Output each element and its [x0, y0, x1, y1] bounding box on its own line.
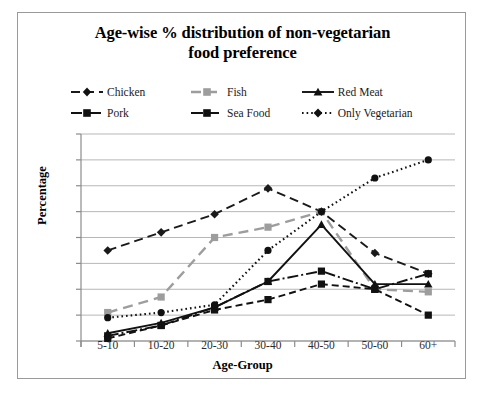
x-tick-label: 40-50: [291, 339, 351, 351]
chart-frame: Age-wise % distribution of non-vegetaria…: [17, 12, 466, 379]
x-tick-label: 5-10: [78, 339, 138, 351]
x-tick-label: 20-30: [185, 339, 245, 351]
x-tick-label: 30-40: [238, 339, 298, 351]
x-tick-label: 50-60: [345, 339, 405, 351]
x-axis-title: Age-Group: [18, 358, 467, 373]
x-axis-tick-labels: 5-1010-2020-3030-4040-5050-6060+: [18, 13, 467, 380]
y-axis-title: Percentage: [35, 136, 50, 256]
x-tick-label: 10-20: [131, 339, 191, 351]
x-tick-label: 60+: [398, 339, 458, 351]
plot-area: 80706050403020100 5-1010-2020-3030-4040-…: [18, 13, 467, 380]
